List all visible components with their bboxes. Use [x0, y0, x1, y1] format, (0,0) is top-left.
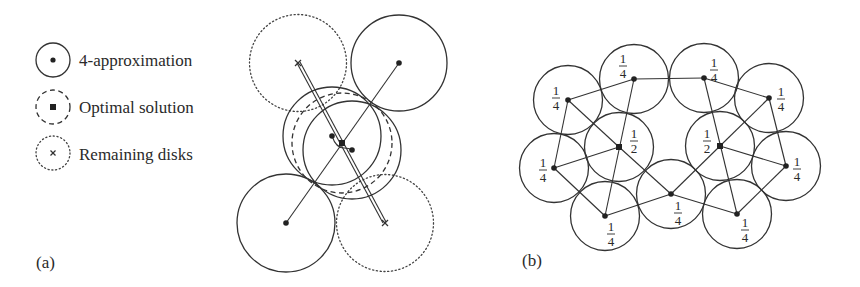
legend-item-optimal: Optimal solution: [36, 90, 194, 124]
dot-marker-icon: [766, 95, 772, 101]
legend-item-approximation: 4-approximation: [36, 43, 193, 77]
fraction-numerator: 1: [675, 198, 682, 213]
fraction-numerator: 1: [620, 51, 627, 66]
dot-marker-icon: [631, 76, 637, 82]
fraction-denominator: 4: [540, 170, 547, 185]
dot-marker-icon: [396, 60, 402, 66]
weight-fraction: 14: [674, 198, 682, 228]
square-marker-icon: [717, 143, 723, 149]
panel-b-markers: [551, 75, 789, 219]
fraction-numerator: 1: [631, 126, 638, 141]
square-marker-icon: [50, 104, 56, 110]
dot-marker-icon: [50, 57, 55, 62]
panel-b-label: (b): [522, 251, 542, 270]
fraction-numerator: 1: [778, 84, 785, 99]
fraction-denominator: 4: [711, 70, 718, 85]
fraction-numerator: 1: [553, 83, 560, 98]
dot-marker-icon: [783, 163, 789, 169]
graph-edge: [720, 98, 769, 146]
weight-fraction: 14: [777, 84, 785, 114]
weight-fraction: 14: [710, 55, 718, 85]
weight-fraction: 14: [793, 154, 801, 184]
dot-marker-icon: [734, 211, 740, 217]
graph-edge: [605, 194, 671, 216]
panel-a-label: (a): [36, 253, 55, 272]
weight-fraction: 14: [741, 215, 749, 245]
fraction-denominator: 2: [704, 141, 711, 156]
dot-marker-icon: [329, 133, 335, 139]
figure-canvas: 4-approximation Optimal solution Remaini…: [0, 0, 860, 287]
fraction-numerator: 1: [711, 55, 718, 70]
legend-label: 4-approximation: [79, 51, 193, 70]
graph-edge: [554, 147, 619, 168]
graph-edge: [568, 100, 619, 147]
square-marker-icon: [616, 144, 622, 150]
weight-fraction: 14: [539, 155, 547, 185]
graph-edge: [634, 78, 704, 79]
fraction-denominator: 4: [778, 99, 785, 114]
fraction-numerator: 1: [704, 126, 711, 141]
fraction-numerator: 1: [742, 215, 749, 230]
fraction-numerator: 1: [540, 155, 547, 170]
dot-marker-icon: [551, 165, 557, 171]
graph-edge: [619, 147, 671, 194]
fraction-numerator: 1: [608, 219, 615, 234]
weight-fraction: 14: [619, 51, 627, 81]
cross-marker-icon: [51, 151, 56, 156]
fraction-denominator: 4: [794, 169, 801, 184]
fraction-denominator: 4: [608, 234, 615, 249]
legend-label: Remaining disks: [79, 145, 193, 164]
graph-edge: [568, 79, 634, 100]
fraction-denominator: 4: [553, 98, 560, 113]
graph-edge: [720, 146, 786, 166]
dot-marker-icon: [349, 147, 355, 153]
panel-b-disks: [520, 44, 821, 251]
dot-marker-icon: [668, 191, 674, 197]
fraction-denominator: 4: [620, 66, 627, 81]
weight-fraction: 12: [703, 126, 711, 156]
graph-edge: [554, 168, 605, 216]
square-marker-icon: [339, 140, 345, 146]
legend-item-remaining: Remaining disks: [36, 136, 193, 170]
legend-label: Optimal solution: [79, 98, 194, 117]
weight-fraction: 14: [607, 219, 615, 249]
dot-marker-icon: [602, 213, 608, 219]
fraction-denominator: 2: [631, 141, 638, 156]
graph-edge: [737, 166, 786, 214]
dot-marker-icon: [565, 97, 571, 103]
dot-marker-icon: [701, 75, 707, 81]
weight-fraction: 12: [630, 126, 638, 156]
legend: 4-approximation Optimal solution Remaini…: [36, 43, 194, 170]
panel-b-diagram: 1414141414121214141414 (b): [520, 44, 821, 271]
dot-marker-icon: [283, 220, 289, 226]
fraction-denominator: 4: [675, 213, 682, 228]
graph-edge: [671, 146, 720, 194]
fraction-numerator: 1: [794, 154, 801, 169]
weight-fraction: 14: [552, 83, 560, 113]
fraction-denominator: 4: [742, 230, 749, 245]
